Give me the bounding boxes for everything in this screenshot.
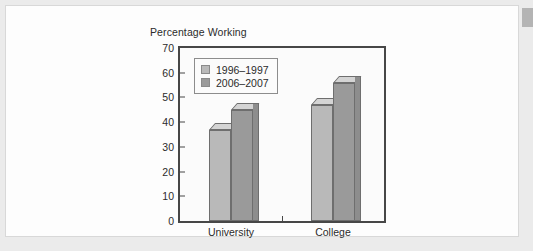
legend-item: 2006–2007 (201, 76, 269, 89)
y-axis-tick-label: 60 (162, 67, 180, 79)
legend-item: 1996–1997 (201, 63, 269, 76)
bar-front-face (231, 110, 253, 221)
y-axis-tick-mark (180, 122, 185, 123)
bar-top-face (231, 103, 253, 110)
x-axis-category-label: College (315, 226, 351, 238)
bar-side-face (355, 76, 361, 221)
y-axis-tick-label: 10 (162, 190, 180, 202)
y-axis-tick-label: 70 (162, 42, 180, 54)
y-axis-title: Percentage Working (150, 26, 247, 38)
bar (209, 130, 231, 221)
page-root: Percentage Working 010203040506070Univer… (0, 0, 533, 251)
y-axis-tick-label: 0 (168, 215, 180, 227)
bar-side-face (253, 103, 259, 221)
y-axis-tick-mark (180, 97, 185, 98)
bar-top-face (311, 98, 333, 105)
y-axis-tick-mark (180, 146, 185, 147)
y-axis-tick-mark (180, 72, 185, 73)
bar (231, 110, 253, 221)
plot-area: 010203040506070UniversityCollege 1996–19… (178, 46, 386, 223)
y-axis-tick-mark (180, 171, 185, 172)
bar-front-face (333, 83, 355, 221)
y-axis-tick-label: 20 (162, 166, 180, 178)
bar-chart: Percentage Working 010203040506070Univer… (146, 26, 394, 231)
bar (333, 83, 355, 221)
y-axis-tick-label: 50 (162, 91, 180, 103)
y-axis-tick-label: 30 (162, 141, 180, 153)
bar-front-face (209, 130, 231, 221)
bar (311, 105, 333, 221)
bar-top-face (333, 76, 355, 83)
legend-label-series-1: 1996–1997 (216, 64, 269, 76)
y-axis-tick-label: 40 (162, 116, 180, 128)
x-axis-category-label: University (208, 226, 254, 238)
page-corner-marker (522, 8, 533, 27)
legend-swatch-series-2 (201, 78, 210, 87)
y-axis-tick-mark (180, 196, 185, 197)
chart-legend: 1996–1997 2006–2007 (194, 58, 278, 94)
bar-top-face (209, 123, 231, 130)
x-axis-tick-mark (282, 216, 283, 221)
bar-front-face (311, 105, 333, 221)
bar-group (311, 83, 355, 221)
legend-swatch-series-1 (201, 65, 210, 74)
bar-group (209, 110, 253, 221)
document-page: Percentage Working 010203040506070Univer… (5, 5, 519, 237)
legend-label-series-2: 2006–2007 (216, 77, 269, 89)
